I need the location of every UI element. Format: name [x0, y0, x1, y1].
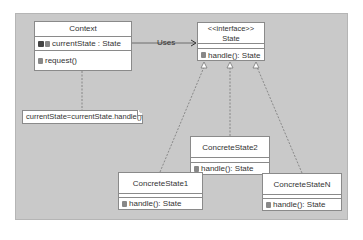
operation-text: handle(): State	[273, 200, 325, 209]
method-icon	[201, 52, 206, 58]
operation-row: handle(): State	[198, 49, 264, 61]
attribute-icon	[45, 41, 50, 47]
private-lock-icon	[38, 41, 44, 47]
method-icon	[266, 202, 271, 208]
operation-row: request()	[35, 51, 131, 70]
class-concrete-state2[interactable]: ConcreteState2 handle(): State	[190, 136, 270, 175]
class-name: ConcreteStateN	[263, 174, 341, 195]
class-concrete-state1[interactable]: ConcreteState1 handle(): State	[118, 172, 203, 210]
operation-text: handle(): State	[129, 199, 181, 208]
interface-header: <<interface>> State	[198, 23, 264, 44]
association-label: Uses	[157, 38, 175, 47]
operation-text: handle(): State	[201, 164, 253, 173]
class-context[interactable]: Context currentState : State request()	[34, 21, 132, 71]
method-icon	[38, 58, 43, 64]
stereotype: <<interface>>	[198, 24, 264, 34]
method-icon	[122, 201, 127, 207]
operation-row: handle(): State	[119, 198, 202, 209]
class-name: ConcreteState2	[191, 137, 269, 158]
class-concrete-staten[interactable]: ConcreteStateN handle(): State	[262, 173, 342, 211]
operation-row: handle(): State	[263, 199, 341, 210]
method-icon	[194, 166, 199, 172]
class-name: ConcreteState1	[119, 173, 202, 194]
operation-text: request()	[45, 56, 77, 65]
note[interactable]: currentState=currentState.handle()	[22, 110, 143, 124]
class-name: State	[198, 34, 264, 44]
interface-state[interactable]: <<interface>> State handle(): State	[197, 22, 265, 61]
operation-text: handle(): State	[208, 51, 260, 60]
class-name: Context	[35, 22, 131, 37]
attribute-text: currentState : State	[52, 39, 121, 48]
attribute-row: currentState : State	[35, 37, 131, 51]
